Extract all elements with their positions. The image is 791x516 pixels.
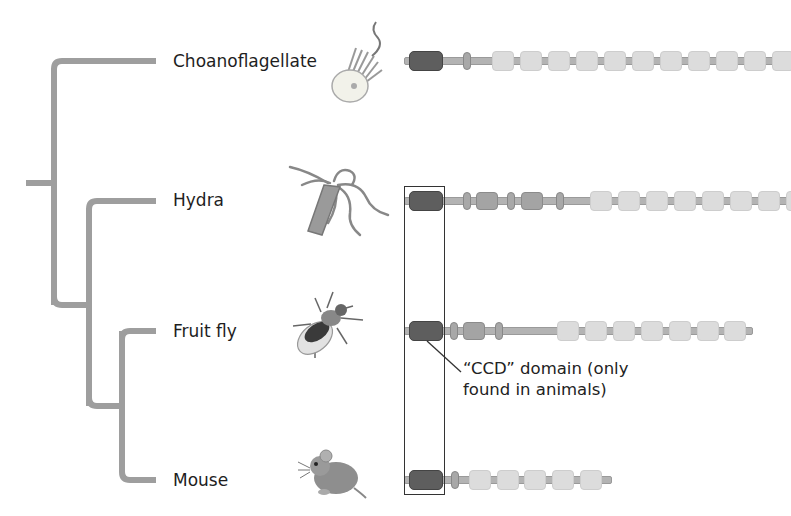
callout-pointer-line: [0, 0, 791, 516]
ccd-annotation: “CCD” domain (only found in animals): [463, 358, 628, 400]
ccd-annotation-line1: “CCD” domain (only: [463, 358, 628, 379]
ccd-annotation-line2: found in animals): [463, 379, 628, 400]
